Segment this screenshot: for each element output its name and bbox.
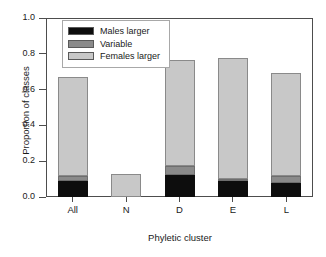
x-tick-mark — [179, 197, 180, 202]
y-tick-label: 0.4 — [5, 119, 35, 129]
y-tick-label: 0.2 — [5, 155, 35, 165]
y-tick-mark — [39, 89, 46, 90]
x-tick-label-e: E — [213, 204, 253, 215]
bar-segment-e-males-larger — [218, 180, 248, 197]
bar-segment-all-females-larger — [58, 77, 88, 176]
bar-segment-d-females-larger — [165, 60, 195, 166]
legend-item: Females larger — [68, 50, 164, 63]
x-tick-label-d: D — [160, 204, 200, 215]
legend-item: Variable — [68, 38, 164, 51]
x-tick-label-l: L — [266, 204, 306, 215]
y-tick-label: 0.8 — [5, 48, 35, 58]
y-tick-label: 0.6 — [5, 84, 35, 94]
x-tick-label-all: All — [53, 204, 93, 215]
bar-segment-l-variable — [271, 176, 301, 182]
y-tick-label: 1.0 — [5, 12, 35, 22]
legend: Males larger Variable Females larger — [62, 20, 170, 68]
y-tick-mark — [39, 197, 46, 198]
bar-segment-l-females-larger — [271, 73, 301, 176]
x-tick-mark — [126, 197, 127, 202]
chart-container: Proportion of classes 0.00.20.40.60.81.0… — [0, 0, 326, 257]
x-axis-title: Phyletic cluster — [46, 232, 314, 243]
bar-segment-l-males-larger — [271, 183, 301, 197]
legend-label-variable: Variable — [100, 39, 132, 49]
legend-label-females-larger: Females larger — [100, 51, 160, 61]
legend-swatch-females-larger — [68, 52, 94, 60]
bar-segment-e-females-larger — [218, 58, 248, 178]
bar-segment-n-females-larger — [111, 174, 141, 197]
x-tick-mark — [286, 197, 287, 202]
y-tick-mark — [39, 53, 46, 54]
bar-segment-all-variable — [58, 176, 88, 180]
legend-label-males-larger: Males larger — [100, 26, 150, 36]
bar-segment-d-variable — [165, 166, 195, 175]
x-tick-mark — [232, 197, 233, 202]
y-tick-label: 0.0 — [5, 191, 35, 201]
y-tick-mark — [39, 125, 46, 126]
legend-swatch-variable — [68, 40, 94, 48]
bar-segment-e-variable — [218, 179, 248, 181]
x-tick-mark — [72, 197, 73, 202]
y-tick-mark — [39, 161, 46, 162]
legend-item: Males larger — [68, 25, 164, 38]
y-tick-mark — [39, 18, 46, 19]
legend-swatch-males-larger — [68, 27, 94, 35]
bar-segment-d-males-larger — [165, 175, 195, 197]
x-tick-label-n: N — [106, 204, 146, 215]
bar-segment-all-males-larger — [58, 181, 88, 197]
